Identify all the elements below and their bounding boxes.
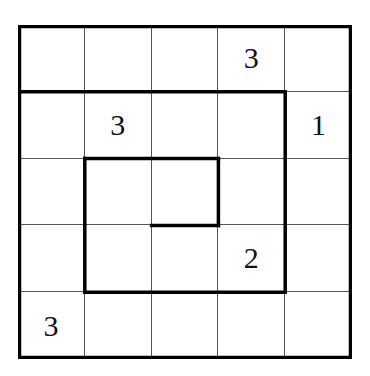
cell-r2-c4[interactable] [285,159,352,226]
cell-r2-c0[interactable] [18,159,85,226]
cell-r0-c0[interactable] [18,25,85,92]
cell-r2-c2[interactable] [152,159,219,226]
cell-r4-c4[interactable] [285,292,352,359]
cell-r4-c0[interactable]: 3 [18,292,85,359]
cell-r4-c1[interactable] [85,292,152,359]
cell-r0-c1[interactable] [85,25,152,92]
puzzle-grid: 3 3 1 2 3 [18,25,352,359]
cell-r1-c3[interactable] [218,92,285,159]
cell-r3-c0[interactable] [18,225,85,292]
cell-r3-c4[interactable] [285,225,352,292]
cell-r3-c2[interactable] [152,225,219,292]
cell-r0-c3[interactable]: 3 [218,25,285,92]
cell-r0-c2[interactable] [152,25,219,92]
cell-r2-c1[interactable] [85,159,152,226]
cell-r2-c3[interactable] [218,159,285,226]
cell-r4-c3[interactable] [218,292,285,359]
cell-r1-c1[interactable]: 3 [85,92,152,159]
cell-r3-c1[interactable] [85,225,152,292]
cell-r0-c4[interactable] [285,25,352,92]
puzzle-board: 3 3 1 2 3 [18,25,352,359]
cell-r1-c0[interactable] [18,92,85,159]
cell-r3-c3[interactable]: 2 [218,225,285,292]
cell-r4-c2[interactable] [152,292,219,359]
cell-r1-c2[interactable] [152,92,219,159]
cell-r1-c4[interactable]: 1 [285,92,352,159]
